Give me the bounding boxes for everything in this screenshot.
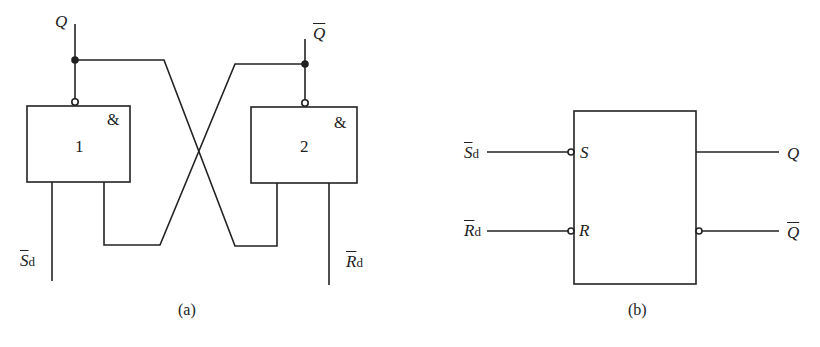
pin-s-label: S [580, 144, 589, 161]
pin-r-label: R [579, 222, 589, 239]
label-q-a: Q [55, 13, 67, 30]
s-inversion-bubble [568, 149, 574, 155]
label-sd-b: Sd [464, 144, 479, 161]
gate-1-number: 1 [75, 138, 84, 155]
r-inversion-bubble [568, 228, 574, 234]
caption-b: (b) [628, 302, 647, 318]
label-rd-a: Rd [346, 253, 363, 270]
label-sd-a: Sd [20, 252, 35, 269]
gate-2-number: 2 [300, 138, 309, 155]
feedback-wire-qbar [104, 64, 305, 245]
gate-1-and-symbol: & [107, 112, 119, 128]
label-qbar-b: Q [787, 224, 799, 241]
latch-block [574, 111, 696, 284]
label-rd-b: Rd [464, 222, 481, 239]
feedback-wire-q [75, 60, 277, 246]
qbar-inversion-bubble [696, 228, 702, 234]
gate-2-inversion-bubble [302, 100, 308, 106]
gate-1-inversion-bubble [72, 99, 78, 105]
label-q-b: Q [787, 145, 799, 162]
caption-a: (a) [178, 302, 196, 318]
label-qbar-a: Q [313, 25, 325, 42]
circuit-diagram [0, 0, 820, 347]
gate-2-and-symbol: & [334, 115, 346, 131]
